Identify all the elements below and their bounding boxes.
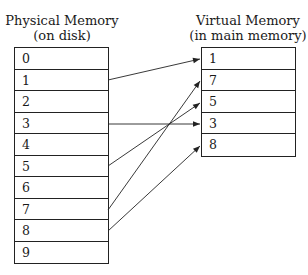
- arrow-5-to-5: [108, 103, 200, 166]
- mapping-arrows: [0, 0, 308, 275]
- arrow-8-to-8: [108, 146, 200, 231]
- arrow-7-to-7: [108, 81, 200, 210]
- arrow-1-to-1: [108, 59, 200, 80]
